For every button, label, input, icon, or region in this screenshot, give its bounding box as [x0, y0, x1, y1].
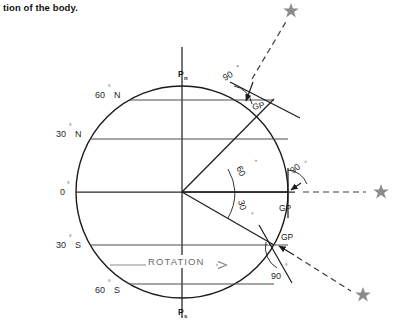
latitude-label-60n-hemi: N — [114, 90, 121, 100]
rotation-label: ROTATION — [148, 256, 204, 267]
latitude-label-60n-degree: ° — [108, 84, 111, 91]
latitude-label-30n-value: 30 — [56, 129, 66, 139]
latitude-label-30s-group: 30 ° S — [56, 234, 81, 251]
latitude-label-30s-degree: ° — [69, 234, 72, 241]
angle-30-degree-symbol: ° — [247, 212, 255, 217]
star-icon-middle — [373, 184, 389, 199]
angle-90-upper-label-group: 90 ° — [221, 63, 241, 82]
angle-30-value: 30 — [236, 199, 248, 211]
ray-arrow-lower — [279, 246, 294, 255]
latitude-label-60n-group: 60 ° N — [95, 84, 121, 101]
star-icon-lower — [355, 287, 371, 302]
angle-90-middle-label-group: 90 ° — [288, 159, 310, 176]
latitude-label-60s-degree: ° — [108, 279, 111, 286]
latitude-label-30n-degree: ° — [69, 123, 72, 130]
dashed-ray-to-star-lower — [297, 257, 351, 291]
dashed-ray-to-star-upper — [252, 20, 287, 79]
gp-label-lower: GP — [281, 232, 294, 242]
angle-90-middle-value: 90 — [288, 162, 302, 176]
latitude-label-30n-group: 30 ° N — [56, 123, 82, 140]
pole-north-subscript: n — [184, 75, 188, 81]
angle-90-middle-degree-symbol: ° — [303, 159, 310, 166]
radius-to-gp-lower — [182, 192, 274, 245]
latitude-label-0-group: 0 ° — [60, 181, 70, 198]
pole-north-label-group: P n — [178, 69, 188, 81]
latitude-label-30s-hemi: S — [75, 240, 81, 250]
angle-90-lower-degree-symbol: ° — [285, 263, 288, 270]
pole-south-subscript: s — [184, 313, 188, 319]
star-icon-upper — [283, 3, 299, 18]
angle-90-lower-value: 90 — [271, 271, 281, 281]
arc-angle-30 — [228, 192, 235, 218]
angle-60-value: 60 — [234, 164, 248, 178]
latitude-label-30s-value: 30 — [56, 240, 66, 250]
latitude-label-0-value: 0 — [60, 187, 65, 197]
latitude-label-60s-group: 60 ° S — [95, 279, 120, 296]
pole-south-label-group: P s — [178, 307, 188, 319]
latitude-label-60s-hemi: S — [114, 285, 120, 295]
angle-90-upper-value: 90 — [221, 69, 235, 83]
latitude-label-60s-value: 60 — [95, 285, 105, 295]
radius-to-gp-upper — [182, 99, 274, 192]
figure-page: tion of the body. — [0, 0, 403, 327]
earth-geographical-position-diagram: 60 ° 30 ° — [0, 0, 403, 327]
latitude-label-0-degree: ° — [67, 181, 70, 188]
angle-30-label-group: 30 ° — [236, 199, 255, 216]
angle-90-upper-degree-symbol: ° — [235, 63, 241, 71]
gp-label-middle: GP — [279, 203, 292, 213]
angle-60-degree-symbol: ° — [251, 159, 259, 165]
latitude-label-60n-value: 60 — [95, 90, 105, 100]
latitude-label-30n-hemi: N — [75, 129, 82, 139]
ray-arrow-middle — [291, 183, 301, 190]
ray-arrow-upper — [246, 82, 253, 101]
angle-60-label-group: 60 ° — [234, 159, 259, 178]
arc-angle-60 — [228, 169, 235, 192]
radius-guide-hidden — [182, 139, 274, 192]
